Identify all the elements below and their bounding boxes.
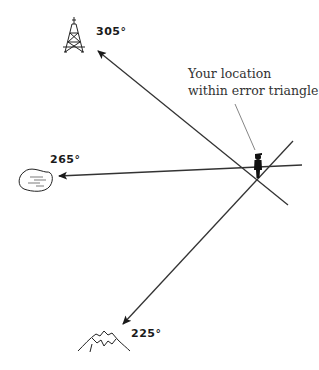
bearing-label-225: 225° (131, 327, 161, 340)
mountain-icon (78, 331, 130, 352)
triangulation-diagram: 305° 265° 225° Your location within erro… (0, 0, 319, 370)
caption-leader-line (235, 104, 255, 150)
bearing-label-265: 265° (50, 153, 80, 166)
lake-icon (19, 169, 52, 191)
caption-line-2: within error triangle (188, 83, 319, 98)
caption-line-1: Your location (187, 66, 271, 81)
bearing-label-305: 305° (96, 25, 126, 38)
tower-icon (63, 17, 85, 52)
person-icon (254, 153, 262, 178)
bearing-line-225 (123, 141, 293, 324)
